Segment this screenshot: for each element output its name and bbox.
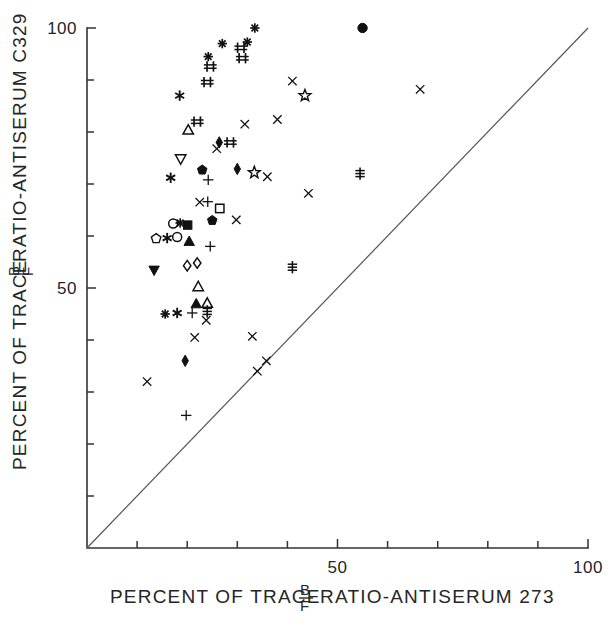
data-point-open-triangle-down: [175, 155, 185, 164]
data-point-star-burst: [175, 90, 184, 100]
data-point-triple-bar: [288, 261, 297, 273]
data-point-asterisk: [218, 39, 227, 48]
data-point-cross: [263, 173, 271, 181]
data-point-cross: [202, 316, 210, 324]
data-point-plus: [203, 196, 213, 206]
data-point-open-diamond: [194, 258, 201, 268]
data-point-plus: [205, 241, 215, 251]
data-point-double-plus: [201, 77, 214, 87]
data-point-filled-pentagon: [197, 165, 207, 174]
data-point-star-burst: [163, 233, 172, 243]
data-point-cross: [304, 189, 312, 197]
data-point-double-plus: [191, 116, 204, 126]
data-point-star-burst: [166, 173, 175, 183]
x-axis-label: PERCENT OF TRACE B F RATIO-ANTISERUM 273: [110, 581, 555, 614]
data-point-cross: [262, 357, 270, 365]
data-point-filled-diamond: [182, 355, 188, 366]
data-point-cross: [273, 115, 281, 123]
data-point-plus: [187, 308, 197, 318]
data-point-double-plus: [236, 53, 249, 63]
identity-reference-line: [87, 28, 588, 548]
data-point-cross: [213, 144, 221, 152]
data-point-cross: [416, 85, 424, 93]
data-point-triple-bar: [355, 167, 364, 179]
data-point-asterisk: [160, 309, 169, 318]
y-axis-label-fraction-denominator: F: [19, 267, 36, 276]
y-axis-ticks: [87, 28, 96, 496]
data-point-open-triangle-up: [183, 125, 193, 134]
data-point-filled-pentagon: [207, 215, 217, 224]
scatter-plot-figure: PERCENT OF TRACE B F RATIO-ANTISERUM C32…: [0, 0, 610, 633]
x-axis-label-prefix: PERCENT OF TRACE: [110, 586, 321, 607]
x-tick-label: 100: [573, 558, 603, 577]
y-axis-label: PERCENT OF TRACE B F RATIO-ANTISERUM C32…: [5, 12, 36, 470]
data-point-cross: [288, 77, 296, 85]
x-axis-label-fraction-numerator: B: [300, 581, 310, 598]
data-point-cross: [241, 120, 249, 128]
data-point-open-square: [216, 204, 224, 212]
x-axis-label-suffix: RATIO-ANTISERUM 273: [320, 586, 555, 607]
data-point-open-pentagon: [151, 234, 161, 243]
data-point-plus: [181, 410, 191, 420]
chart-canvas: PERCENT OF TRACE B F RATIO-ANTISERUM C32…: [0, 0, 610, 633]
data-point-filled-triangle-up: [191, 298, 201, 307]
data-point-asterisk: [250, 23, 259, 32]
data-point-cross: [143, 377, 151, 385]
data-point-open-triangle-up: [193, 281, 203, 290]
x-tick-label: 50: [328, 558, 348, 577]
data-point-plus: [203, 175, 213, 185]
x-axis-label-fraction-denominator: F: [300, 597, 309, 614]
y-tick-label: 100: [47, 19, 77, 38]
data-point-filled-triangle-down: [149, 266, 159, 275]
data-point-filled-circle: [358, 23, 367, 32]
data-point-open-star: [248, 166, 260, 177]
data-point-double-plus: [224, 137, 237, 147]
data-point-filled-triangle-up: [184, 236, 194, 245]
data-point-double-plus: [204, 61, 217, 71]
data-point-filled-diamond: [234, 163, 240, 174]
y-axis-label-suffix: RATIO-ANTISERUM C329: [9, 12, 30, 262]
data-point-cross: [248, 332, 256, 340]
y-tick-label: 50: [57, 279, 77, 298]
y-axis-label-prefix: PERCENT OF TRACE: [9, 259, 30, 470]
y-axis-tick-labels: 50100: [47, 19, 77, 298]
data-point-filled-square: [184, 221, 192, 229]
data-point-open-diamond: [184, 260, 191, 270]
data-point-open-circle: [173, 233, 182, 242]
data-point-layer: [143, 23, 424, 420]
x-axis-ticks: [137, 539, 588, 548]
x-axis-tick-labels: 50100: [328, 558, 603, 577]
data-point-cross: [191, 333, 199, 341]
data-point-star-burst: [173, 308, 182, 318]
data-point-cross: [253, 367, 261, 375]
data-point-asterisk: [204, 52, 213, 61]
data-point-cross: [232, 216, 240, 224]
data-point-open-star: [299, 89, 311, 100]
